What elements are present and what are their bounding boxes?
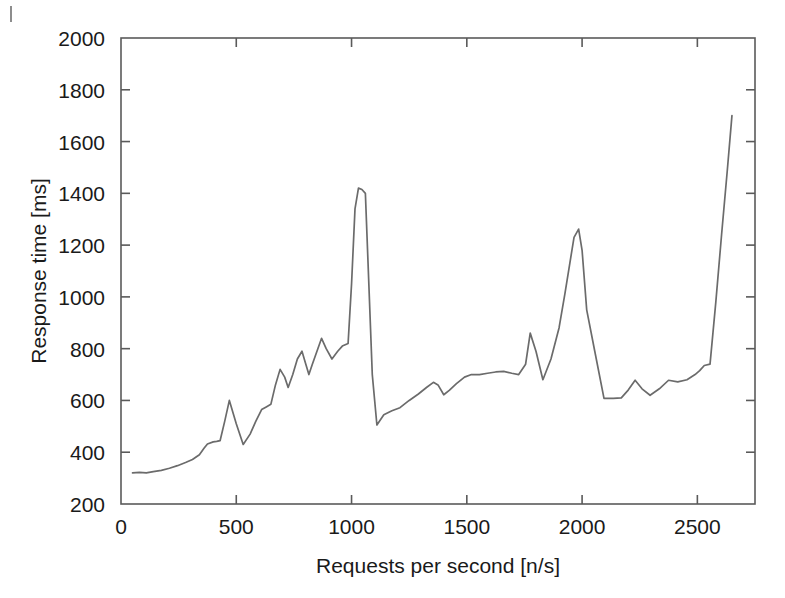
y-tick-label: 600 [70,389,105,412]
y-tick-label: 1600 [58,131,105,154]
x-axis-ticks [236,38,697,504]
y-tick-label: 1000 [58,286,105,309]
y-axis-tick-labels: 200400600800100012001400160018002000 [58,27,105,516]
data-series-line [133,116,732,473]
x-tick-label: 2500 [674,515,721,538]
x-tick-label: 500 [219,515,254,538]
x-tick-label: 1500 [443,515,490,538]
response-time-line-chart: 200400600800100012001400160018002000 050… [0,0,785,598]
y-tick-label: 800 [70,338,105,361]
x-tick-label: 0 [115,515,127,538]
x-axis-tick-labels: 05001000150020002500 [115,515,721,538]
y-tick-label: 400 [70,441,105,464]
x-tick-label: 2000 [559,515,606,538]
y-axis-ticks [121,90,755,452]
y-tick-label: 200 [70,493,105,516]
figure-root: 200400600800100012001400160018002000 050… [0,0,785,598]
y-tick-label: 1200 [58,234,105,257]
y-axis-title: Response time [ms] [27,178,50,364]
x-tick-label: 1000 [328,515,375,538]
y-tick-label: 2000 [58,27,105,50]
x-axis-title: Requests per second [n/s] [316,554,560,577]
plot-frame [121,38,755,504]
y-tick-label: 1800 [58,79,105,102]
y-tick-label: 1400 [58,182,105,205]
